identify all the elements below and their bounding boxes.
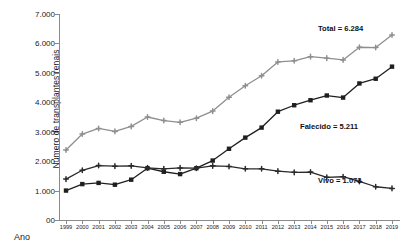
data-point-marker xyxy=(64,188,68,192)
x-tick-mark xyxy=(262,221,263,224)
x-tick-label: 2015 xyxy=(321,224,333,230)
x-tick-mark xyxy=(66,221,67,224)
data-point-marker xyxy=(129,177,133,181)
x-tick-mark xyxy=(131,221,132,224)
data-point-marker xyxy=(325,56,330,61)
plot-area xyxy=(59,14,399,220)
x-tick-label: 2008 xyxy=(206,224,218,230)
series-label-total: Total = 6.284 xyxy=(318,24,363,33)
x-tick-label: 1999 xyxy=(60,224,72,230)
x-tick-label: 2009 xyxy=(223,224,235,230)
x-tick-label: 2005 xyxy=(158,224,170,230)
data-point-marker xyxy=(374,77,378,81)
data-point-marker xyxy=(276,169,281,174)
y-tick-label: 2.000 xyxy=(13,157,55,166)
y-tick-label: 00 xyxy=(13,216,55,225)
data-point-marker xyxy=(243,166,248,171)
x-tick-mark xyxy=(180,221,181,224)
data-point-marker xyxy=(162,118,167,123)
data-point-marker xyxy=(96,126,101,131)
data-point-marker xyxy=(390,64,394,68)
data-point-marker xyxy=(129,164,134,169)
x-tick-mark xyxy=(213,221,214,224)
x-tick-label: 2013 xyxy=(288,224,300,230)
data-point-marker xyxy=(325,93,329,97)
x-tick-mark xyxy=(327,221,328,224)
data-point-marker xyxy=(259,166,264,171)
data-point-marker xyxy=(113,129,118,134)
x-tick-mark xyxy=(278,221,279,224)
x-tick-label: 2010 xyxy=(239,224,251,230)
data-point-marker xyxy=(210,164,215,169)
x-tick-mark xyxy=(99,221,100,224)
data-point-marker xyxy=(243,135,247,139)
x-tick-label: 2003 xyxy=(125,224,137,230)
series-layer xyxy=(59,14,399,220)
x-tick-label: 2018 xyxy=(369,224,381,230)
chart-root: Número de transplantes renais Ano 001.00… xyxy=(0,0,408,252)
x-tick-mark xyxy=(294,221,295,224)
data-point-marker xyxy=(178,166,183,171)
y-tick-mark xyxy=(55,220,59,221)
x-tick-label: 2019 xyxy=(386,224,398,230)
data-point-marker xyxy=(308,54,313,59)
data-point-marker xyxy=(292,58,297,63)
y-tick-label: 4.000 xyxy=(13,98,55,107)
x-tick-label: 2017 xyxy=(353,224,365,230)
data-point-marker xyxy=(341,95,345,99)
x-tick-mark xyxy=(82,221,83,224)
data-point-marker xyxy=(357,81,361,85)
x-tick-label: 2000 xyxy=(76,224,88,230)
x-tick-label: 2016 xyxy=(337,224,349,230)
x-tick-label: 2007 xyxy=(190,224,202,230)
data-point-marker xyxy=(390,186,395,191)
data-point-marker xyxy=(292,103,296,107)
y-tick-label: 6.000 xyxy=(13,39,55,48)
data-point-marker xyxy=(227,164,232,169)
y-tick-label: 5.000 xyxy=(13,68,55,77)
x-tick-mark xyxy=(343,221,344,224)
y-tick-label: 3.000 xyxy=(13,127,55,136)
x-tick-mark xyxy=(376,221,377,224)
series-total xyxy=(64,33,395,152)
x-tick-label: 2011 xyxy=(256,224,268,230)
data-point-marker xyxy=(259,125,263,129)
x-tick-mark xyxy=(164,221,165,224)
series-label-vivo: Vivo = 1.073 xyxy=(318,176,362,185)
x-tick-mark xyxy=(115,221,116,224)
data-point-marker xyxy=(113,164,118,169)
x-tick-mark xyxy=(392,221,393,224)
x-tick-mark xyxy=(196,221,197,224)
x-tick-label: 2001 xyxy=(92,224,104,230)
x-tick-mark xyxy=(229,221,230,224)
data-point-marker xyxy=(96,181,100,185)
data-point-marker xyxy=(96,163,101,168)
x-tick-label: 2004 xyxy=(141,224,153,230)
x-tick-label: 2002 xyxy=(109,224,121,230)
data-point-marker xyxy=(276,110,280,114)
x-tick-mark xyxy=(311,221,312,224)
series-label-falecido: Falecido = 5.211 xyxy=(300,122,358,131)
data-point-marker xyxy=(292,170,297,175)
data-point-marker xyxy=(194,116,199,121)
data-point-marker xyxy=(178,120,183,125)
x-tick-mark xyxy=(359,221,360,224)
data-point-marker xyxy=(211,158,215,162)
y-tick-label: 1.000 xyxy=(13,186,55,195)
data-point-marker xyxy=(308,170,313,175)
x-tick-mark xyxy=(148,221,149,224)
x-tick-mark xyxy=(245,221,246,224)
data-point-marker xyxy=(178,172,182,176)
data-point-marker xyxy=(80,182,84,186)
data-point-marker xyxy=(373,184,378,189)
x-tick-label: 2006 xyxy=(174,224,186,230)
x-tick-label: 2014 xyxy=(304,224,316,230)
data-point-marker xyxy=(227,147,231,151)
data-point-marker xyxy=(113,182,117,186)
x-axis-title: Ano xyxy=(14,232,30,242)
y-tick-label: 7.000 xyxy=(13,10,55,19)
data-point-marker xyxy=(308,98,312,102)
x-tick-label: 2012 xyxy=(272,224,284,230)
